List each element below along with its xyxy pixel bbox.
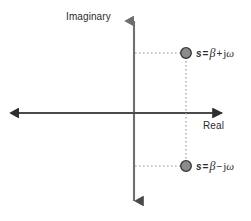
pole-marker-lower[interactable]	[181, 161, 192, 172]
pole-label-upper: s=β+jω	[196, 46, 234, 61]
real-axis-label: Real	[203, 120, 224, 131]
complex-plane-svg	[0, 0, 251, 221]
pole-label-lower: s=β−jω	[196, 159, 234, 174]
pole-upper-variable: s	[196, 48, 202, 59]
pole-lower-imaginary-part: ω	[226, 160, 234, 172]
s-plane-diagram: Imaginary Real s=β+jω s=β−jω	[0, 0, 251, 221]
pole-marker-upper[interactable]	[181, 48, 192, 59]
imaginary-axis-label: Imaginary	[66, 11, 111, 22]
pole-upper-imaginary-part: ω	[226, 47, 234, 59]
pole-lower-variable: s	[196, 161, 202, 172]
